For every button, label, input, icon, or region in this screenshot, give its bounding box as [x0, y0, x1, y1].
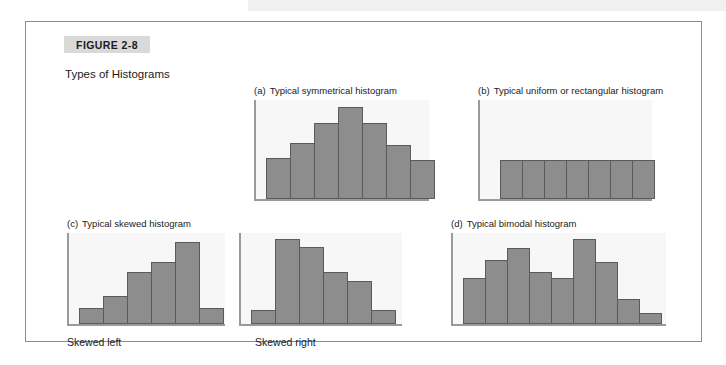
bar	[566, 160, 589, 199]
bar	[573, 239, 596, 324]
bar	[410, 160, 435, 199]
bar-series-c-right	[251, 233, 395, 324]
bar	[386, 145, 411, 199]
bar-series-c-left	[79, 233, 223, 324]
sublabel-skewed-right: Skewed right	[255, 336, 316, 348]
bar	[290, 143, 315, 199]
x-axis-line	[67, 324, 225, 326]
panel-b-marker: (b)	[478, 85, 490, 96]
bar	[151, 262, 176, 324]
x-axis-line	[239, 324, 402, 326]
panel-c-skewed: (c)Typical skewed histogram Skewed left …	[67, 218, 402, 326]
panel-d-marker: (d)	[451, 218, 463, 229]
bar	[485, 260, 508, 324]
panel-a-symmetrical: (a)Typical symmetrical histogram	[254, 85, 429, 201]
bar	[314, 123, 339, 199]
scan-artifact-band	[248, 0, 726, 11]
bar	[199, 308, 224, 324]
bar	[610, 160, 633, 199]
bar	[500, 160, 523, 199]
y-axis-line	[239, 233, 241, 326]
y-axis-line	[67, 233, 69, 326]
panel-c-marker: (c)	[67, 218, 78, 229]
bar	[127, 272, 152, 324]
panel-d-title: (d)Typical bimodal histogram	[451, 218, 666, 229]
bar	[371, 310, 396, 324]
bar	[347, 281, 372, 324]
bar	[529, 272, 552, 324]
figure-caption: Types of Histograms	[65, 68, 170, 80]
bar-series-d	[463, 233, 661, 324]
figure-number-label: FIGURE 2-8	[64, 36, 150, 53]
bar	[338, 107, 363, 199]
panel-d-title-text: Typical bimodal histogram	[467, 218, 577, 229]
y-axis-line	[478, 100, 480, 201]
bar	[544, 160, 567, 199]
x-axis-line	[451, 324, 666, 326]
histogram-b	[478, 100, 652, 201]
bar	[595, 262, 618, 324]
bar	[522, 160, 545, 199]
bar	[588, 160, 611, 199]
bar	[103, 296, 128, 324]
bar	[617, 299, 640, 324]
panel-b-title-text: Typical uniform or rectangular histogram	[494, 85, 664, 96]
panel-a-title-text: Typical symmetrical histogram	[270, 85, 397, 96]
bar	[266, 158, 291, 199]
panel-b-title: (b)Typical uniform or rectangular histog…	[478, 85, 663, 96]
histogram-c-left	[67, 233, 225, 326]
histogram-a	[254, 100, 429, 201]
panel-c-title: (c)Typical skewed histogram	[67, 218, 402, 229]
bar	[275, 239, 300, 324]
histogram-c-right	[239, 233, 402, 326]
sublabel-skewed-left: Skewed left	[67, 336, 121, 348]
bar-series-b	[500, 100, 654, 199]
histogram-d	[451, 233, 666, 326]
bar	[299, 247, 324, 324]
bar	[551, 278, 574, 324]
panel-a-marker: (a)	[254, 85, 266, 96]
figure-frame: FIGURE 2-8 Types of Histograms (a)Typica…	[25, 21, 702, 342]
bar-series-a	[266, 100, 434, 199]
bar	[79, 308, 104, 324]
bar	[463, 278, 486, 324]
bar	[632, 160, 655, 199]
y-axis-line	[451, 233, 453, 326]
panel-d-bimodal: (d)Typical bimodal histogram	[451, 218, 666, 326]
panel-b-uniform: (b)Typical uniform or rectangular histog…	[478, 85, 663, 201]
bar	[507, 248, 530, 324]
panel-a-title: (a)Typical symmetrical histogram	[254, 85, 429, 96]
panel-c-title-text: Typical skewed histogram	[82, 218, 191, 229]
bar	[175, 242, 200, 324]
bar	[323, 272, 348, 324]
y-axis-line	[254, 100, 256, 201]
x-axis-line	[478, 199, 652, 201]
bar	[639, 313, 662, 324]
bar	[251, 310, 276, 324]
panel-c-plots	[67, 233, 402, 326]
bar	[362, 123, 387, 199]
x-axis-line	[254, 199, 429, 201]
